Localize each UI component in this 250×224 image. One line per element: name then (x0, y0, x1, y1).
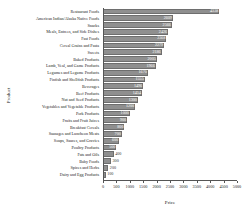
bar-value-label: 1555 (103, 76, 145, 83)
x-axis-tick (170, 181, 171, 183)
bar-value-label: 300 (112, 158, 119, 165)
bar-value-label: 1000 (103, 110, 130, 117)
x-axis-tick-label: 500 (113, 184, 119, 190)
x-axis-tick-label: 0 (102, 184, 104, 190)
bar-value-label: 2005 (103, 56, 157, 63)
y-axis-line (103, 8, 104, 180)
bar-value-label: 1966 (103, 63, 156, 70)
bar-value-label: 2368 (103, 35, 166, 42)
bar-value-label: 2186 (103, 49, 162, 56)
x-axis-tick (224, 181, 225, 183)
x-axis-tick (197, 181, 198, 183)
bar-value-label: 2566 (103, 22, 172, 29)
bar-value-label: 1496 (103, 83, 143, 90)
bar-value-label: 600 (103, 137, 119, 144)
bar-value-label: 1670 (103, 69, 148, 76)
bar-value-label: 2279 (103, 42, 164, 49)
x-axis-tick-label: 3500 (193, 184, 201, 190)
x-axis-tick-label: 1000 (126, 184, 134, 190)
bar-value-label: 4338 (103, 8, 219, 15)
x-axis-tick-label: 2500 (166, 184, 174, 190)
x-axis-tick-label: 3000 (179, 184, 187, 190)
y-axis-label: Dairy and Egg Products (60, 171, 99, 178)
x-axis-tick (130, 181, 131, 183)
x-axis-tick (210, 181, 211, 183)
bar (103, 151, 114, 157)
x-axis-tick (143, 181, 144, 183)
x-axis-tick-label: 1500 (139, 184, 147, 190)
x-axis-title: Price (103, 200, 237, 205)
x-axis-tick-label: 2000 (152, 184, 160, 190)
x-axis-tick (237, 181, 238, 183)
bar-value-label: 2609 (103, 15, 173, 22)
x-axis-tick (157, 181, 158, 183)
x-axis-tick (103, 181, 104, 183)
bar-value-label: 100 (106, 171, 113, 178)
bar-value-label: 1200 (103, 103, 135, 110)
bar-value-label: 200 (109, 165, 116, 172)
bar-value-label: 2426 (103, 29, 168, 36)
bar-chart: Restaurant FoodsAmerican Indian/Alaska N… (0, 0, 250, 224)
bar-value-label: 800 (103, 124, 124, 131)
bar-row: 100 (103, 171, 237, 178)
x-axis-tick (116, 181, 117, 183)
plot-area: 4338260925662426236822792186200519661670… (103, 8, 237, 178)
y-axis-category-labels: Restaurant FoodsAmerican Indian/Alaska N… (0, 8, 101, 178)
bar-value-label: 700 (103, 131, 122, 138)
bar-value-label: 1300 (103, 97, 138, 104)
x-axis-tick-label: 5000 (233, 184, 241, 190)
bar-value-label: 400 (114, 151, 121, 158)
x-axis-tick-label: 4500 (219, 184, 227, 190)
y-axis-title: Product (6, 72, 11, 120)
bar-value-label: 1454 (103, 90, 142, 97)
x-axis-tick-label: 4000 (206, 184, 214, 190)
bar-value-label: 900 (103, 117, 127, 124)
bar (103, 158, 111, 164)
x-axis-tick (183, 181, 184, 183)
bar-value-label: 500 (103, 144, 116, 151)
